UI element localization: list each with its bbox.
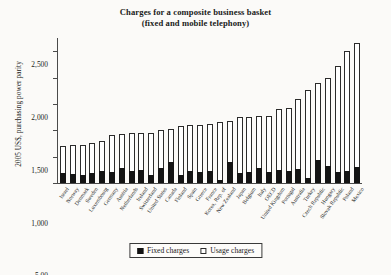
stacked-bar[interactable]: [344, 51, 350, 183]
y-tick-mark: 2,500: [53, 51, 57, 52]
stacked-bar[interactable]: [246, 117, 252, 183]
bar-segment-fixed: [99, 171, 105, 183]
bar-column[interactable]: [313, 38, 323, 183]
stacked-bar[interactable]: [295, 99, 301, 183]
stacked-bar[interactable]: [187, 125, 193, 183]
bar-column[interactable]: [107, 38, 117, 183]
bar-segment-fixed: [217, 180, 223, 183]
bar-column[interactable]: [87, 38, 97, 183]
bar-segment-fixed: [315, 160, 321, 183]
bar-segment-usage: [119, 134, 125, 169]
bar-column[interactable]: [97, 38, 107, 183]
bar-column[interactable]: [343, 38, 353, 183]
stacked-bar[interactable]: [119, 134, 125, 183]
y-tick-mark: 0: [53, 183, 57, 184]
chart-figure: Charges for a composite business basket …: [0, 0, 391, 275]
stacked-bar[interactable]: [325, 78, 331, 183]
y-tick-label: 2,500: [31, 60, 48, 69]
stacked-bar[interactable]: [99, 141, 105, 183]
bar-column[interactable]: [244, 38, 254, 183]
bar-column[interactable]: [78, 38, 88, 183]
bar-column[interactable]: [215, 38, 225, 183]
stacked-bar[interactable]: [335, 66, 341, 183]
bar-column[interactable]: [137, 38, 147, 183]
bar-column[interactable]: [176, 38, 186, 183]
bar-column[interactable]: [235, 38, 245, 183]
bar-column[interactable]: [303, 38, 313, 183]
bar-column[interactable]: [68, 38, 78, 183]
bar-segment-fixed: [158, 168, 164, 183]
bar-segment-fixed: [227, 162, 233, 183]
bar-group: [58, 38, 362, 183]
bar-column[interactable]: [352, 38, 362, 183]
bar-segment-usage: [187, 125, 193, 172]
stacked-bar[interactable]: [305, 90, 311, 183]
stacked-bar[interactable]: [237, 117, 243, 183]
bar-column[interactable]: [195, 38, 205, 183]
plot-area: 05,001,0001,5002,0002,500: [57, 38, 362, 184]
bar-column[interactable]: [333, 38, 343, 183]
bar-column[interactable]: [127, 38, 137, 183]
bar-segment-fixed: [178, 175, 184, 183]
bar-segment-fixed: [197, 172, 203, 183]
bar-column[interactable]: [294, 38, 304, 183]
stacked-bar[interactable]: [315, 83, 321, 183]
bar-column[interactable]: [254, 38, 264, 183]
legend-swatch-fixed-icon: [137, 248, 143, 254]
bar-column[interactable]: [156, 38, 166, 183]
stacked-bar[interactable]: [227, 121, 233, 183]
stacked-bar[interactable]: [354, 43, 360, 183]
stacked-bar[interactable]: [109, 135, 115, 183]
bar-segment-usage: [305, 90, 311, 178]
bar-segment-usage: [207, 124, 213, 171]
bar-segment-usage: [315, 83, 321, 160]
stacked-bar[interactable]: [256, 116, 262, 183]
bar-column[interactable]: [117, 38, 127, 183]
bar-column[interactable]: [205, 38, 215, 183]
bar-column[interactable]: [186, 38, 196, 183]
y-tick-mark: 1,000: [53, 130, 57, 131]
stacked-bar[interactable]: [70, 145, 76, 183]
stacked-bar[interactable]: [197, 125, 203, 183]
bar-segment-fixed: [305, 178, 311, 183]
stacked-bar[interactable]: [266, 116, 272, 183]
bar-segment-fixed: [344, 171, 350, 183]
y-tick-label: 1,500: [31, 165, 48, 174]
legend-label-fixed: Fixed charges: [147, 246, 189, 255]
bar-segment-fixed: [266, 172, 272, 183]
bar-segment-usage: [168, 129, 174, 162]
stacked-bar[interactable]: [60, 146, 66, 183]
stacked-bar[interactable]: [178, 126, 184, 183]
stacked-bar[interactable]: [276, 109, 282, 183]
bar-column[interactable]: [166, 38, 176, 183]
bar-column[interactable]: [284, 38, 294, 183]
bar-segment-usage: [246, 117, 252, 173]
bar-column[interactable]: [274, 38, 284, 183]
stacked-bar[interactable]: [89, 143, 95, 183]
bar-segment-fixed: [246, 172, 252, 183]
bar-column[interactable]: [264, 38, 274, 183]
bar-segment-usage: [178, 126, 184, 175]
stacked-bar[interactable]: [80, 145, 86, 183]
bar-column[interactable]: [146, 38, 156, 183]
bar-column[interactable]: [323, 38, 333, 183]
bar-segment-fixed: [207, 171, 213, 183]
bar-segment-usage: [354, 43, 360, 166]
stacked-bar[interactable]: [158, 130, 164, 183]
y-tick-mark: 5,00: [53, 157, 57, 158]
stacked-bar[interactable]: [217, 122, 223, 183]
legend-item-fixed: Fixed charges: [137, 246, 189, 255]
bar-segment-usage: [227, 121, 233, 163]
bar-segment-fixed: [295, 169, 301, 184]
legend-label-usage: Usage charges: [210, 246, 254, 255]
bar-column[interactable]: [58, 38, 68, 183]
stacked-bar[interactable]: [168, 129, 174, 183]
stacked-bar[interactable]: [207, 124, 213, 183]
stacked-bar[interactable]: [148, 133, 154, 183]
stacked-bar[interactable]: [129, 133, 135, 183]
bar-segment-usage: [129, 133, 135, 171]
bar-column[interactable]: [225, 38, 235, 183]
legend-item-usage: Usage charges: [200, 246, 254, 255]
stacked-bar[interactable]: [286, 108, 292, 183]
stacked-bar[interactable]: [138, 133, 144, 183]
